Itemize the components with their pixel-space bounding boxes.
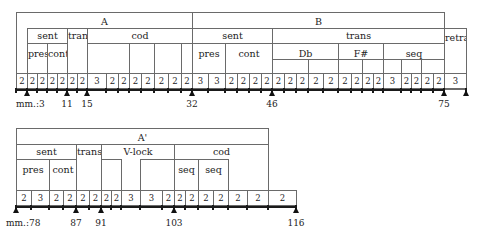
b-db-label: Db (273, 48, 338, 59)
measure-marker-triangle-icon (269, 90, 275, 96)
phrase-length-cell: 2 (141, 73, 155, 89)
phrase-length-cell: 2 (16, 190, 32, 206)
phrase-length-cell: 3 (192, 73, 209, 89)
measure-marker-triangle-icon (98, 207, 104, 213)
measure-number-label: 11 (61, 99, 72, 110)
section-a-prime-label: A' (17, 132, 268, 143)
section-a-label: A (17, 16, 192, 27)
b-pres-label: pres (193, 48, 225, 59)
a-sent-label: sent (28, 30, 67, 41)
measure-number-label: 15 (81, 99, 92, 110)
measure-number-label: mm.:3 (16, 99, 45, 110)
retra-label: retra (445, 32, 466, 43)
measure-number-label: 87 (70, 218, 81, 229)
phrase-length-cell: 2 (198, 190, 214, 206)
b-seq-label: seq (384, 48, 444, 59)
measure-number-label: 75 (438, 99, 449, 110)
phrase-length-cell: 2 (185, 190, 199, 206)
a-pres-label: pres (28, 48, 47, 59)
measure-number-label: 32 (186, 99, 197, 110)
ap-pres-label: pres (17, 164, 49, 175)
phrase-length-cell: 2 (228, 190, 248, 206)
section-b-label: B (193, 16, 444, 27)
measure-axis (16, 206, 296, 208)
ap-trans-label: trans (77, 146, 101, 157)
measure-marker-triangle-icon (73, 207, 79, 213)
measure-marker-triangle-icon (189, 90, 195, 96)
b-sent-label: sent (193, 30, 272, 41)
phrase-length-cell: 2 (213, 190, 229, 206)
phrase-length-cell: 2 (323, 73, 339, 89)
phrase-length-cell: 2 (308, 73, 324, 89)
phrase-length-cell: 2 (247, 190, 269, 206)
phrase-length-cell: 3 (87, 73, 107, 89)
a-trans-label: trans (68, 30, 87, 41)
phrase-length-cell: 3 (444, 73, 467, 89)
phrase-length-cell: 2 (268, 190, 297, 206)
phrase-length-cell: 2 (49, 190, 64, 206)
phrase-length-cell: 2 (76, 190, 90, 206)
measure-marker-triangle-icon (441, 90, 447, 96)
formal-analysis-diagram: ABsentpresconttranscodsentpresconttransD… (0, 0, 479, 238)
phrase-length-cell: 3 (383, 73, 402, 89)
phrase-length-cell: 3 (208, 73, 226, 89)
a-cont-label: cont (48, 48, 67, 59)
measure-marker-triangle-icon (13, 207, 19, 213)
phrase-length-cell: 2 (63, 190, 77, 206)
phrase-length-cell: 2 (168, 73, 182, 89)
ap-seq-2-label: seq (199, 164, 228, 175)
measure-number-label: 116 (287, 218, 304, 229)
ap-seq-1-label: seq (175, 164, 198, 175)
ap-cont-label: cont (50, 164, 76, 175)
measure-axis (16, 89, 444, 91)
phrase-length-cell: 3 (121, 190, 141, 206)
a-cod-label: cod (88, 30, 192, 41)
ap-vlock-label: V-lock (102, 146, 174, 157)
b-cont-label: cont (226, 48, 272, 59)
ap-cod-label: cod (175, 146, 268, 157)
phrase-length-cell: 3 (31, 190, 50, 206)
measure-marker-triangle-icon (64, 90, 70, 96)
measure-number-label: 91 (95, 218, 106, 229)
b-fsharp-label: F# (339, 48, 383, 59)
b-trans-label: trans (273, 30, 444, 41)
measure-number-label: 46 (266, 99, 277, 110)
measure-number-label: 103 (165, 218, 182, 229)
measure-marker-triangle-icon (24, 90, 30, 96)
measure-marker-triangle-icon (171, 207, 177, 213)
measure-marker-triangle-icon (463, 90, 469, 96)
ap-sent-label: sent (17, 146, 76, 157)
measure-marker-triangle-icon (293, 207, 299, 213)
phrase-length-cell: 3 (140, 190, 163, 206)
phrase-length-cell: 2 (338, 73, 352, 89)
measure-marker-triangle-icon (84, 90, 90, 96)
measure-number-label: mm.:78 (6, 218, 40, 229)
phrase-length-cell: 2 (154, 73, 169, 89)
